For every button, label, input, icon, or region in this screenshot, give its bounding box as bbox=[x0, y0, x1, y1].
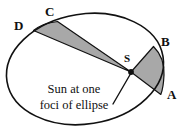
vertex-label-s: S bbox=[124, 53, 130, 64]
vertex-label-a: A bbox=[167, 88, 176, 101]
caption-line-2: foci of ellipse bbox=[22, 98, 126, 114]
caption-line-1: Sun at one bbox=[22, 82, 126, 98]
caption-text: Sun at one foci of ellipse bbox=[22, 82, 126, 113]
vertex-label-b: B bbox=[161, 35, 170, 48]
vertex-label-d: D bbox=[14, 19, 23, 32]
diagram-canvas bbox=[0, 0, 183, 138]
sun-focus-dot bbox=[128, 69, 134, 75]
shaded-sector-SCD bbox=[34, 22, 132, 73]
shaded-sector-SAB bbox=[131, 47, 164, 95]
ellipse-orbit-diagram: D C B A S Sun at one foci of ellipse bbox=[0, 0, 183, 138]
vertex-label-c: C bbox=[45, 5, 54, 18]
